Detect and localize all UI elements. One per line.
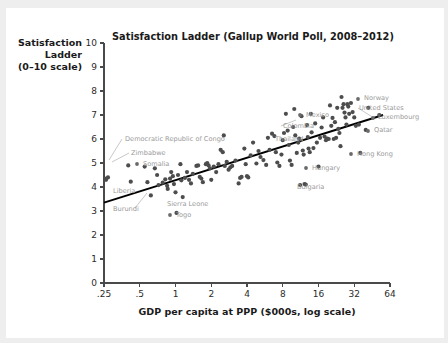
y-axis-title-line: (0–10 scale) — [18, 61, 82, 72]
x-tick-label: 32 — [349, 289, 360, 299]
data-point — [230, 164, 234, 168]
data-point — [233, 159, 237, 163]
x-tick-label: 8 — [280, 289, 286, 299]
annotation-label: United States — [359, 104, 404, 112]
y-tick-label: 6 — [91, 134, 97, 144]
data-point — [287, 143, 291, 147]
annotation-marker — [349, 152, 353, 156]
data-point — [330, 116, 334, 120]
data-point — [237, 181, 241, 185]
annotation-label: Burundi — [113, 205, 139, 213]
data-point — [209, 178, 213, 182]
y-tick-label: 9 — [91, 62, 97, 72]
data-point — [179, 178, 183, 182]
annotation-label: Hong Kong — [357, 150, 393, 158]
data-point — [258, 155, 262, 159]
annotation-label: Democratic Republic of Congo — [125, 135, 225, 143]
data-point — [338, 144, 342, 148]
data-point — [266, 136, 270, 140]
data-point — [288, 159, 292, 163]
y-tick-label: 4 — [91, 182, 97, 192]
data-point — [310, 130, 314, 134]
data-point — [292, 107, 296, 111]
data-point — [327, 137, 331, 141]
data-point — [149, 193, 153, 197]
annotation-marker — [304, 166, 308, 170]
annotation-label: Zimbabwe — [131, 149, 166, 157]
annotation-marker — [366, 129, 370, 133]
x-tick-label: 2 — [208, 289, 214, 299]
data-point — [342, 111, 346, 115]
data-point — [306, 147, 310, 151]
x-axis-title: GDP per capita at PPP ($000s, log scale) — [139, 306, 356, 317]
data-point — [295, 151, 299, 155]
axis-labels-group: Satisfaction Ladder (Gallup World Poll, … — [18, 31, 394, 317]
figure-background: 012345678910.25.51248163264 Democratic R… — [0, 0, 448, 343]
data-point — [189, 181, 193, 185]
y-tick-label: 10 — [86, 38, 98, 48]
data-point — [315, 141, 319, 145]
data-point — [214, 170, 218, 174]
data-point — [279, 153, 283, 157]
data-point — [329, 124, 333, 128]
chart-panel: 012345678910.25.51248163264 Democratic R… — [6, 8, 444, 338]
data-point — [340, 106, 344, 110]
y-tick-label: 8 — [91, 86, 97, 96]
y-axis-title-line: Satisfaction — [18, 37, 82, 48]
data-point — [306, 135, 310, 139]
annotation-label: Liberia — [113, 187, 135, 195]
y-tick-label: 7 — [91, 110, 97, 120]
chart-title: Satisfaction Ladder (Gallup World Poll, … — [112, 31, 394, 42]
data-point — [351, 110, 355, 114]
data-point — [201, 180, 205, 184]
data-point — [290, 163, 294, 167]
annotation-label: Colombia — [283, 122, 314, 130]
x-tick-label: 16 — [313, 289, 325, 299]
data-point — [357, 123, 361, 127]
data-point — [311, 146, 315, 150]
data-point — [268, 148, 272, 152]
data-point — [129, 180, 133, 184]
data-point — [181, 195, 185, 199]
annotations-group: Democratic Republic of CongoZimbabweSoma… — [109, 94, 419, 219]
data-point — [261, 158, 265, 162]
data-point — [172, 182, 176, 186]
regression-line — [104, 115, 383, 203]
data-point — [339, 95, 343, 99]
annotation-label: Luxembourg — [378, 113, 419, 121]
data-point — [302, 153, 306, 157]
annotation-label: Mexico — [306, 111, 329, 119]
annotation-label: Hungary — [312, 164, 340, 172]
annotation-marker — [356, 97, 360, 101]
annotation-label: Sierra Leone — [167, 200, 208, 208]
data-point — [249, 153, 253, 157]
data-point — [239, 175, 243, 179]
data-point — [191, 172, 195, 176]
x-tick-label: .5 — [135, 289, 144, 299]
data-point — [196, 163, 200, 167]
data-point — [346, 105, 350, 109]
data-point — [126, 163, 130, 167]
data-point — [336, 127, 340, 131]
data-point — [344, 123, 348, 127]
axes-group: 012345678910.25.51248163264 — [86, 38, 396, 299]
data-point — [171, 174, 175, 178]
annotation-marker — [135, 162, 139, 166]
data-point — [212, 165, 216, 169]
data-point — [277, 164, 281, 168]
data-point — [352, 115, 356, 119]
data-point — [246, 175, 250, 179]
data-point — [176, 173, 180, 177]
data-point — [216, 162, 220, 166]
data-point — [161, 181, 165, 185]
data-point — [333, 120, 337, 124]
annotation-label: Norway — [364, 94, 389, 102]
data-point — [334, 136, 338, 140]
data-point — [185, 170, 189, 174]
data-point — [251, 141, 255, 145]
data-point — [256, 149, 260, 153]
annotation-label: Togo — [175, 211, 191, 219]
data-point — [337, 131, 341, 135]
y-tick-label: 5 — [91, 158, 97, 168]
data-point — [225, 160, 229, 164]
